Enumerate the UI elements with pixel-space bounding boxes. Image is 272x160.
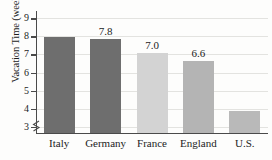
bar-england[interactable] bbox=[183, 61, 214, 133]
x-axis-label-us: U.S. bbox=[216, 137, 272, 149]
y-axis-line bbox=[36, 11, 37, 134]
bar-value-label: 7.0 bbox=[132, 40, 172, 51]
x-axis-line bbox=[36, 133, 268, 134]
bar-italy[interactable] bbox=[44, 37, 75, 133]
gridline bbox=[37, 18, 268, 19]
bar-value-label: 7.8 bbox=[86, 26, 126, 37]
y-axis-tick-label: 4 bbox=[7, 104, 29, 114]
bar-us[interactable] bbox=[229, 111, 260, 133]
vacation-time-bar-chart: Vacation Time (weeks) 3456789 ItalyGerma… bbox=[0, 0, 272, 160]
bar-germany[interactable] bbox=[90, 39, 121, 133]
bar-value-label: 6.6 bbox=[178, 48, 218, 59]
y-axis-tick-label: 6 bbox=[7, 68, 29, 78]
axis-break-icon bbox=[32, 120, 43, 132]
y-axis-tick-label: 9 bbox=[7, 13, 29, 23]
y-axis-tick-label: 5 bbox=[7, 86, 29, 96]
plot-area: 3456789 bbox=[36, 11, 268, 134]
y-axis-tick-label: 3 bbox=[7, 122, 29, 132]
bar-france[interactable] bbox=[137, 53, 168, 133]
y-axis-tick-label: 7 bbox=[7, 49, 29, 59]
y-axis-tick-label: 8 bbox=[7, 31, 29, 41]
